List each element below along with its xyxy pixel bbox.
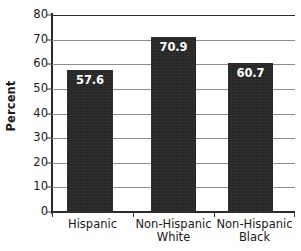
x-axis-tick-labels: Hispanic Non-Hispanic White Non-Hispanic… — [52, 216, 295, 251]
y-tick-label: 60 — [22, 59, 48, 71]
x-tick-mark — [52, 212, 53, 217]
y-axis-title: Percent — [0, 0, 22, 212]
bar-value-label: 60.7 — [228, 68, 273, 80]
y-tick-label: 20 — [22, 157, 48, 169]
bar-value-label: 57.6 — [67, 75, 113, 87]
y-tick-label: 10 — [22, 182, 48, 194]
y-tick-label: 40 — [22, 108, 48, 120]
x-tick-mark — [133, 212, 134, 217]
y-tick-label: 0 — [22, 206, 48, 218]
bar-non-hispanic-white: 70.9 — [151, 37, 196, 212]
gridline-80 — [52, 15, 295, 16]
y-tick-label: 80 — [22, 9, 48, 21]
x-label-line: Non-Hispanic — [214, 218, 295, 231]
bar-hispanic: 57.6 — [67, 70, 113, 212]
x-label-non-hispanic-black: Non-Hispanic Black — [214, 218, 295, 243]
bar-value-label: 70.9 — [151, 42, 196, 54]
x-label-line: Black — [214, 231, 295, 244]
x-tick-mark — [294, 212, 295, 217]
bar-non-hispanic-black: 60.7 — [228, 63, 273, 212]
x-label-line: Non-Hispanic — [133, 218, 214, 231]
y-axis-tick-labels: 80 70 60 50 40 30 20 10 0 — [22, 0, 48, 251]
y-tick-label: 30 — [22, 132, 48, 144]
y-tick-label: 50 — [22, 83, 48, 95]
bar-chart: Percent 80 70 60 50 40 30 20 10 0 57.6 — [0, 0, 301, 251]
y-tick-label: 70 — [22, 34, 48, 46]
x-label-hispanic: Hispanic — [52, 218, 133, 231]
x-label-non-hispanic-white: Non-Hispanic White — [133, 218, 214, 243]
plot-area: 57.6 70.9 60.7 — [52, 15, 295, 212]
x-label-line: Hispanic — [52, 218, 133, 231]
y-axis-title-text: Percent — [4, 81, 18, 132]
x-label-line: White — [133, 231, 214, 244]
x-tick-mark — [214, 212, 215, 217]
